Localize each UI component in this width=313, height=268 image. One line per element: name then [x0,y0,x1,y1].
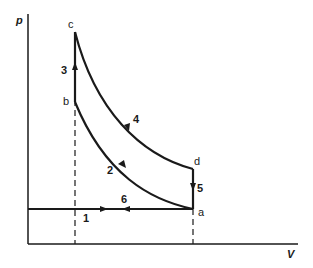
pv-diagram: p V c b d a 3 4 2 5 6 1 [0,0,313,268]
arrow-5-icon [190,183,196,191]
arrow-1-icon [100,206,108,212]
x-axis-label: V [287,248,296,260]
process-label-3: 3 [61,64,67,76]
point-label-c: c [68,18,74,30]
process-label-4: 4 [133,113,140,125]
arrow-6-icon [122,206,130,212]
process-label-2: 2 [107,164,113,176]
point-label-b: b [63,95,69,107]
y-axis-label: p [15,14,23,26]
arrow-2-icon [118,160,126,168]
arrow-3-icon [72,62,78,70]
point-label-a: a [198,206,205,218]
point-label-d: d [194,155,200,167]
process-label-5: 5 [197,182,203,194]
process-label-1: 1 [83,212,89,224]
process-curve-4 [75,32,193,169]
process-label-6: 6 [121,193,127,205]
